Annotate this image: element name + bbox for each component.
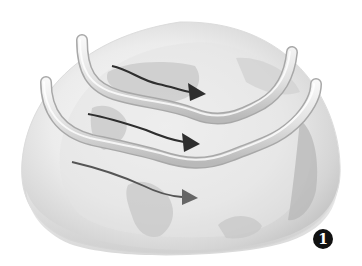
step-number-badge: 1 bbox=[313, 229, 333, 249]
globe-diagram bbox=[0, 0, 362, 266]
